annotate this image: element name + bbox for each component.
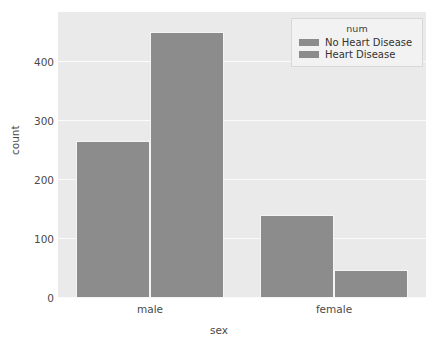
- x-tick-label: female: [316, 303, 352, 315]
- legend-title: num: [299, 23, 415, 34]
- legend-item-label: Heart Disease: [325, 49, 395, 60]
- legend-swatch-icon: [299, 51, 319, 58]
- y-tick-label: 400: [8, 56, 54, 68]
- y-tick-label: 0: [8, 292, 54, 304]
- bar: [334, 270, 408, 298]
- legend-item-heart-disease[interactable]: Heart Disease: [299, 49, 415, 60]
- y-tick-label: 100: [8, 233, 54, 245]
- chart-figure: an 2.0 the as commit the andand the for …: [0, 0, 438, 350]
- legend: num No Heart Disease Heart Disease: [291, 18, 423, 67]
- legend-item-no-heart-disease[interactable]: No Heart Disease: [299, 37, 415, 48]
- bar: [260, 215, 334, 298]
- legend-swatch-icon: [299, 39, 319, 46]
- y-tick-label: 200: [8, 174, 54, 186]
- x-tick-label: male: [137, 303, 163, 315]
- x-axis-label: sex: [0, 324, 438, 336]
- bar: [150, 32, 224, 298]
- legend-item-label: No Heart Disease: [325, 37, 412, 48]
- y-axis-label: count: [9, 125, 21, 155]
- gridline: [58, 120, 426, 121]
- bar: [76, 141, 150, 298]
